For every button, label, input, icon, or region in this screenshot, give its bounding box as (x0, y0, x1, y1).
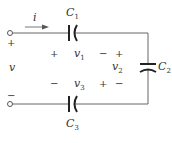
c1-label: C1 (66, 6, 79, 21)
v3-minus-sign: − (50, 78, 58, 89)
v3-plus-sign: + (99, 78, 107, 89)
bottom-terminal (8, 102, 13, 107)
v2-plus-sign: + (115, 48, 123, 59)
top-terminal (8, 31, 13, 36)
v2-minus-sign: − (115, 78, 123, 89)
v2-label: v2 (112, 60, 123, 75)
v1-plus-sign: + (50, 48, 58, 59)
v3-label: v3 (74, 77, 85, 92)
source-voltage-label: v (9, 61, 16, 74)
c2-label: C2 (158, 60, 171, 75)
c3-label: C3 (66, 117, 79, 132)
circuit-diagram: i C1 C2 C3 + v − + v1 − + v2 − v3 + − (0, 0, 172, 143)
source-plus-sign: + (7, 37, 15, 48)
v1-minus-sign: − (99, 48, 107, 59)
source-minus-sign: − (7, 90, 15, 101)
v1-label: v1 (74, 47, 85, 62)
current-label: i (33, 11, 37, 24)
current-arrow-icon (25, 25, 49, 30)
